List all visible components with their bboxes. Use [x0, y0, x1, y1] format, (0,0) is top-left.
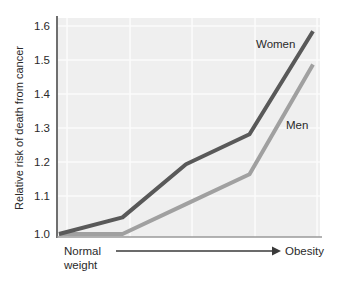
- relative-risk-line-chart: 1.6 1.5 1.4 1.3 1.2 1.1 1.0 Relative ris…: [0, 0, 338, 284]
- x-axis-end-label: Obesity: [285, 245, 324, 257]
- y-tick-label: 1.1: [34, 190, 50, 202]
- y-tick-label: 1.0: [34, 228, 50, 240]
- y-tick-label: 1.4: [34, 88, 51, 100]
- y-tick-label: 1.3: [34, 122, 50, 134]
- x-axis-direction-arrow: [116, 247, 281, 256]
- x-axis-start-label-line2: weight: [63, 259, 98, 271]
- series-label-men: Men: [286, 119, 308, 131]
- series-label-women: Women: [256, 38, 295, 50]
- x-axis-start-label-line1: Normal: [64, 245, 101, 257]
- y-axis-title: Relative risk of death from cancer: [13, 46, 25, 210]
- y-tick-label: 1.5: [34, 54, 50, 66]
- y-tick-labels: 1.6 1.5 1.4 1.3 1.2 1.1 1.0: [34, 20, 51, 240]
- y-tick-label: 1.2: [34, 156, 50, 168]
- chart-screenshot: 1.6 1.5 1.4 1.3 1.2 1.1 1.0 Relative ris…: [0, 0, 338, 284]
- chart-canvas: 1.6 1.5 1.4 1.3 1.2 1.1 1.0 Relative ris…: [0, 0, 338, 284]
- y-tick-label: 1.6: [34, 20, 50, 32]
